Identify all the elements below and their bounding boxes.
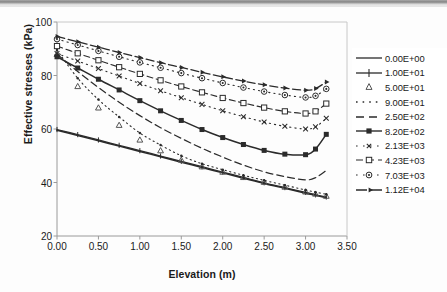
x-tick-label: 1.00 bbox=[117, 241, 163, 252]
legend-label: 0.00E+00 bbox=[383, 53, 425, 64]
legend-label: 8.20E+02 bbox=[383, 126, 425, 137]
legend-item[interactable]: 4.23E+03 bbox=[355, 153, 447, 168]
legend-label: 7.03E+03 bbox=[383, 170, 425, 181]
legend-swatch-2 bbox=[355, 81, 383, 93]
x-tick-label: 3.50 bbox=[324, 241, 370, 252]
legend-swatch-5 bbox=[355, 125, 383, 137]
legend-swatch-7 bbox=[355, 154, 383, 166]
legend-item[interactable]: 1.00E+01 bbox=[355, 66, 447, 81]
legend-item[interactable]: 7.03E+03 bbox=[355, 168, 447, 183]
legend-item[interactable]: 5.00E+01 bbox=[355, 80, 447, 95]
legend-swatch-9 bbox=[355, 184, 383, 196]
x-tick-label: 0.00 bbox=[34, 241, 80, 252]
legend-item[interactable]: 2.13E+03 bbox=[355, 139, 447, 154]
x-tick-label: 2.00 bbox=[200, 241, 246, 252]
legend-label: 9.00E+01 bbox=[383, 97, 425, 108]
legend-label: 1.00E+01 bbox=[383, 67, 425, 78]
x-tick-label: 2.50 bbox=[241, 241, 287, 252]
legend-label: 2.50E+02 bbox=[383, 111, 425, 122]
legend-label: 2.13E+03 bbox=[383, 140, 425, 151]
legend-item[interactable]: 9.00E+01 bbox=[355, 95, 447, 110]
legend-swatch-1 bbox=[355, 67, 383, 79]
series-4.23E+03 bbox=[54, 43, 328, 116]
y-tick-label: 40 bbox=[6, 177, 52, 188]
legend-swatch-0 bbox=[355, 52, 383, 64]
legend-label: 1.12E+04 bbox=[383, 184, 425, 195]
x-axis-title: Elevation (m) bbox=[57, 268, 347, 280]
legend-item[interactable]: 8.20E+02 bbox=[355, 124, 447, 139]
y-axis-title: Effective stresses (kPa) bbox=[22, 4, 34, 164]
legend-item[interactable]: 1.12E+04 bbox=[355, 182, 447, 197]
legend-swatch-4 bbox=[355, 111, 383, 123]
series-2.50E+02 bbox=[57, 54, 326, 180]
legend-label: 5.00E+01 bbox=[383, 82, 425, 93]
legend-item[interactable]: 2.50E+02 bbox=[355, 109, 447, 124]
legend-label: 4.23E+03 bbox=[383, 155, 425, 166]
x-tick-label: 1.50 bbox=[158, 241, 204, 252]
chart-legend: 0.00E+00 1.00E+01 5.00E+01 9.00E+01 2.50… bbox=[352, 48, 447, 200]
chart-screenshot: 100 80 60 40 20 0.00 0.50 1.00 1.50 2.00… bbox=[0, 0, 447, 292]
legend-item[interactable]: 0.00E+00 bbox=[355, 51, 447, 66]
legend-swatch-6 bbox=[355, 140, 383, 152]
legend-swatch-3 bbox=[355, 96, 383, 108]
legend-swatch-8 bbox=[355, 169, 383, 181]
y-tick-label: 20 bbox=[6, 231, 52, 242]
x-tick-label: 0.50 bbox=[75, 241, 121, 252]
x-tick-label: 3.00 bbox=[283, 241, 329, 252]
